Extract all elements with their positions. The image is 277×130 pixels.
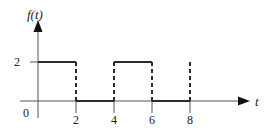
x-tick-label-8: 8 xyxy=(187,113,193,127)
x-tick-labels: 2468 xyxy=(73,113,193,127)
x-tick-label-6: 6 xyxy=(149,113,155,127)
y-axis-label: f(t) xyxy=(27,7,43,22)
x-tick-label-4: 4 xyxy=(111,113,117,127)
x-ticks xyxy=(76,101,190,113)
y-tick-label-2: 2 xyxy=(14,55,20,69)
chart-svg: f(t) t 0 2 2468 xyxy=(0,0,277,130)
dashed-transitions xyxy=(76,62,190,101)
axes xyxy=(20,20,250,118)
pulse-train-chart: f(t) t 0 2 2468 xyxy=(0,0,277,130)
x-tick-label-2: 2 xyxy=(73,113,79,127)
origin-label: 0 xyxy=(23,106,29,120)
x-axis-arrow-icon xyxy=(238,97,250,106)
x-axis-label: t xyxy=(255,94,259,109)
signal-waveform xyxy=(38,62,190,101)
